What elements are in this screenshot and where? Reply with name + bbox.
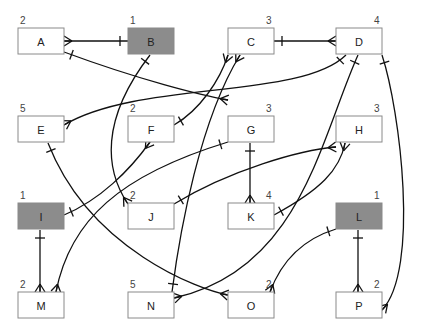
- entity-label: O: [247, 300, 256, 312]
- entity-count: 2: [130, 103, 136, 114]
- relationship-a-g[interactable]: [64, 50, 229, 105]
- entity-n[interactable]: N5: [128, 279, 174, 318]
- many-cardinality-mark: [245, 195, 255, 203]
- one-cardinality-mark: [279, 207, 284, 216]
- many-cardinality-mark: [223, 53, 233, 62]
- entity-count: 1: [130, 15, 136, 26]
- entity-label: E: [37, 124, 44, 136]
- one-cardinality-mark: [168, 283, 178, 284]
- entity-e[interactable]: E5: [18, 103, 64, 142]
- many-cardinality-mark: [328, 142, 336, 152]
- entity-c[interactable]: C3: [228, 15, 274, 54]
- one-cardinality-mark: [178, 196, 183, 205]
- relationship-d-p[interactable]: [378, 55, 403, 313]
- relationship-line[interactable]: [64, 55, 346, 125]
- entity-label: N: [147, 300, 155, 312]
- entity-count: 3: [266, 15, 272, 26]
- many-cardinality-mark: [353, 284, 363, 292]
- entity-label: K: [247, 211, 255, 223]
- entity-count: 2: [130, 190, 136, 201]
- entity-o[interactable]: O2: [228, 279, 274, 318]
- entity-label: D: [355, 36, 363, 48]
- many-cardinality-mark: [35, 284, 45, 292]
- relationship-l-o[interactable]: [265, 227, 336, 294]
- er-diagram: A2B1C3D4E5F2G3H3I1J2K4L1M2N5O2P2: [0, 0, 422, 334]
- entity-label: M: [36, 300, 45, 312]
- relationship-c-d[interactable]: [274, 36, 336, 46]
- relationship-line[interactable]: [274, 143, 345, 215]
- entity-l[interactable]: L1: [336, 190, 382, 229]
- many-cardinality-mark: [328, 36, 336, 46]
- entity-a[interactable]: A2: [18, 15, 64, 54]
- relationship-g-k[interactable]: [245, 143, 255, 203]
- entity-count: 2: [20, 15, 26, 26]
- relationship-l-p[interactable]: [353, 230, 363, 292]
- entity-count: 2: [20, 279, 26, 290]
- relationship-line[interactable]: [64, 52, 228, 100]
- entity-label: J: [148, 211, 154, 223]
- entity-count: 2: [374, 279, 380, 290]
- entity-label: I: [39, 211, 42, 223]
- entity-f[interactable]: F2: [128, 103, 174, 142]
- relationship-line[interactable]: [382, 55, 404, 310]
- relationship-lines: [35, 36, 404, 313]
- entity-label: P: [355, 300, 362, 312]
- entity-d[interactable]: D4: [336, 15, 382, 54]
- entity-j[interactable]: J2: [128, 190, 174, 229]
- entity-count: 4: [374, 15, 380, 26]
- many-cardinality-mark: [220, 95, 229, 105]
- entity-b[interactable]: B1: [128, 15, 174, 54]
- entity-count: 3: [374, 103, 380, 114]
- relationship-b-a[interactable]: [64, 36, 128, 46]
- entity-count: 3: [266, 103, 272, 114]
- entity-boxes: A2B1C3D4E5F2G3H3I1J2K4L1M2N5O2P2: [18, 15, 382, 318]
- entity-label: G: [247, 124, 256, 136]
- entity-i[interactable]: I1: [18, 190, 64, 229]
- entity-label: H: [355, 124, 363, 136]
- entity-label: L: [356, 211, 362, 223]
- relationship-i-m[interactable]: [35, 230, 45, 292]
- entity-label: F: [148, 124, 155, 136]
- one-cardinality-mark: [141, 58, 149, 64]
- entity-label: A: [37, 36, 45, 48]
- entity-count: 2: [266, 279, 272, 290]
- entity-count: 4: [266, 190, 272, 201]
- relationship-line[interactable]: [174, 147, 336, 204]
- relationship-line[interactable]: [270, 229, 336, 292]
- entity-count: 5: [20, 103, 26, 114]
- entity-label: C: [247, 36, 255, 48]
- entity-label: B: [147, 36, 154, 48]
- entity-h[interactable]: H3: [336, 103, 382, 142]
- many-cardinality-mark: [64, 36, 72, 46]
- entity-g[interactable]: G3: [228, 103, 274, 142]
- many-cardinality-mark: [340, 142, 350, 151]
- entity-count: 1: [20, 190, 26, 201]
- entity-count: 5: [130, 279, 136, 290]
- entity-count: 1: [374, 190, 380, 201]
